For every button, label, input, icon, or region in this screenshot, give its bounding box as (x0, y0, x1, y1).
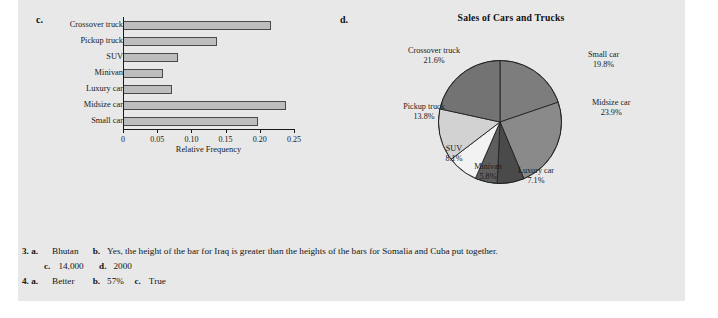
answer-row: 4. a.Betterb.57%c.True (22, 276, 662, 291)
pie-slice-value: 13.8% (403, 112, 445, 122)
x-tick (191, 129, 192, 133)
x-tick-label: 0.15 (219, 135, 233, 144)
pie-slice-name: Luxury car (518, 166, 554, 176)
pie-slice-label: SUV8.1% (445, 144, 462, 164)
bar-category-label: Minivan (95, 68, 123, 77)
bar-category-label: Luxury car (86, 84, 123, 93)
x-tick (260, 129, 261, 133)
answer-label: c. (134, 276, 140, 286)
pie-slice-label: Small car19.8% (588, 50, 619, 70)
page-root: c. Crossover truckPickup truckSUVMinivan… (0, 0, 718, 318)
answer-key-block: 3. a.Bhutanb.Yes, the height of the bar … (22, 246, 662, 291)
pie-slice-value: 5.8% (474, 172, 502, 182)
pie-slice-label: Midsize car23.9% (592, 98, 630, 118)
pie-slice-value: 21.6% (408, 56, 460, 66)
bar (123, 117, 258, 126)
answer-label: b. (93, 246, 100, 256)
answer-label: d. (99, 261, 106, 271)
pie-slice-label: Luxury car7.1% (518, 166, 554, 186)
pie-slice-name: SUV (445, 144, 462, 154)
pie-slice-name: Minivan (474, 162, 502, 172)
pie-chart-title: Sales of Cars and Trucks (337, 12, 685, 23)
bar-category-label: Midsize car (84, 100, 123, 109)
pie-slice-value: 8.1% (445, 154, 462, 164)
pie-chart: Sales of Cars and Trucks Small car19.8%M… (337, 12, 685, 222)
bar-chart-y-axis (123, 17, 124, 129)
pie-slice-value: 19.8% (588, 60, 619, 70)
x-tick-label: 0.20 (253, 135, 267, 144)
x-tick-label: 0.10 (184, 135, 198, 144)
answer-text: Yes, the height of the bar for Iraq is g… (107, 246, 498, 256)
x-tick-label: 0.05 (150, 135, 164, 144)
answer-label: 3. a. (22, 246, 38, 256)
pie-slice-value: 7.1% (518, 176, 554, 186)
answer-text: 14,000 (58, 261, 83, 271)
answer-text: Bhutan (52, 246, 79, 256)
x-tick (123, 129, 124, 133)
pie-slice-name: Small car (588, 50, 619, 60)
bar (123, 21, 271, 30)
bar-chart: Crossover truckPickup truckSUVMinivanLux… (33, 14, 323, 154)
bar (123, 69, 163, 78)
answer-text: 2000 (114, 261, 132, 271)
bar-category-label: Crossover truck (70, 20, 123, 29)
pie-slice-name: Pickup truck (403, 102, 445, 112)
answer-text: 57% (107, 276, 124, 286)
x-tick-label: 0 (121, 135, 125, 144)
bar-chart-plot-area (123, 17, 293, 129)
answer-label: 4. a. (22, 276, 38, 286)
bar (123, 101, 286, 110)
pie-slice-name: Midsize car (592, 98, 630, 108)
bar-category-label: SUV (106, 52, 123, 61)
pie-slice-label: Pickup truck13.8% (403, 102, 445, 122)
answer-text: True (149, 276, 166, 286)
bar (123, 37, 217, 46)
bar-chart-x-axis-label: Relative Frequency (123, 145, 294, 154)
bar-category-label: Small car (91, 116, 123, 125)
x-tick (226, 129, 227, 133)
pie-slice-label: Crossover truck21.6% (408, 46, 460, 66)
bar-category-label: Pickup truck (80, 36, 123, 45)
bar (123, 53, 178, 62)
answer-row: 3. a.Bhutanb.Yes, the height of the bar … (22, 246, 662, 261)
answer-label: c. (44, 261, 50, 271)
answer-text: Better (52, 276, 74, 286)
answer-row: c.14,000d.2000 (22, 261, 662, 276)
x-tick-label: 0.25 (287, 135, 301, 144)
bar (123, 85, 172, 94)
pie-slice-value: 23.9% (592, 108, 630, 118)
bar-chart-x-axis (123, 129, 294, 130)
pie-slice-label: Minivan5.8% (474, 162, 502, 182)
pie-slice-name: Crossover truck (408, 46, 460, 56)
x-tick (294, 129, 295, 133)
answer-label: b. (93, 276, 100, 286)
x-tick (157, 129, 158, 133)
